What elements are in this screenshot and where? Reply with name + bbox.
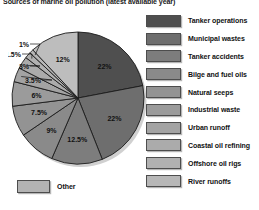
legend-swatch <box>146 68 181 80</box>
legend-label: Coastal oil refining <box>188 142 250 149</box>
legend-item: Bilge and fuel oils <box>146 65 259 83</box>
slice-value-label: 3.5% <box>25 77 42 84</box>
legend-swatch <box>146 86 181 98</box>
legend-item: Urban runoff <box>146 119 259 137</box>
legend-swatch <box>146 15 181 27</box>
legend-item: Industrial waste <box>146 101 259 119</box>
legend-label: River runoffs <box>188 178 231 185</box>
legend-swatch <box>146 122 181 134</box>
slice-value-label: 3% <box>19 63 30 70</box>
legend: Tanker operationsMunicipal wastesTanker … <box>146 12 259 190</box>
legend-swatch <box>146 104 181 116</box>
legend-label: Natural seeps <box>188 89 233 96</box>
legend-item: Tanker accidents <box>146 48 259 66</box>
chart-title: Sources of marine oil pollution (latest … <box>3 0 253 6</box>
slice-value-label: 1% <box>19 41 30 48</box>
slice-value-label: 12% <box>56 56 71 63</box>
slice-value-label: 1.5% <box>8 51 22 58</box>
legend-label: Industrial waste <box>188 106 240 113</box>
legend-item-other: Other <box>17 180 75 193</box>
pie-svg: 22%22%12.5%9%7.5%6%3.5%3%1.5%1%12% <box>8 22 148 172</box>
legend-swatch-other <box>17 180 50 193</box>
slice-value-label: 22% <box>97 63 112 70</box>
legend-label: Urban runoff <box>188 124 230 131</box>
legend-swatch <box>146 139 181 151</box>
legend-item: Municipal wastes <box>146 30 259 48</box>
pie-chart-figure: Sources of marine oil pollution (latest … <box>0 0 259 210</box>
pie-chart-plot-area: 22%22%12.5%9%7.5%6%3.5%3%1.5%1%12% <box>8 22 148 172</box>
legend-label: Tanker operations <box>188 17 247 24</box>
slice-value-label: 9% <box>46 127 57 134</box>
legend-swatch <box>146 175 181 187</box>
legend-item: Natural seeps <box>146 83 259 101</box>
legend-label: Municipal wastes <box>188 35 245 42</box>
legend-label: Tanker accidents <box>188 53 244 60</box>
legend-item: River runoffs <box>146 172 259 190</box>
legend-item: Tanker operations <box>146 12 259 30</box>
legend-item: Coastal oil refining <box>146 137 259 155</box>
slice-value-label: 6% <box>31 92 42 99</box>
legend-label-other: Other <box>57 183 75 190</box>
slice-value-label: 12.5% <box>67 136 88 143</box>
legend-label: Bilge and fuel oils <box>188 71 247 78</box>
legend-swatch <box>146 157 181 169</box>
legend-swatch <box>146 50 181 62</box>
legend-swatch <box>146 33 181 45</box>
slice-value-label: 7.5% <box>31 109 48 116</box>
legend-item: Offshore oil rigs <box>146 154 259 172</box>
legend-label: Offshore oil rigs <box>188 160 241 167</box>
slice-value-label: 22% <box>107 115 122 122</box>
